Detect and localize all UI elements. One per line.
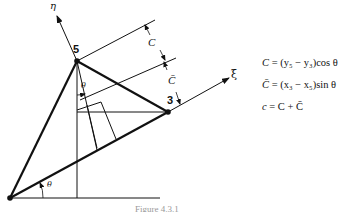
equation-c-rhs: = (y₅ − y₃)cos θ	[272, 57, 338, 68]
edge-origin-node3	[10, 112, 168, 198]
equation-cbar-rhs: = (x₃ − x₅)sin θ	[272, 79, 336, 90]
dimension-cbar-arrow-down	[176, 92, 180, 104]
theta-arc-top	[77, 94, 85, 95]
perp-projection-2	[101, 102, 116, 139]
equation-c-total-rhs: = C + C̄	[269, 101, 303, 112]
diagram-canvas: η ξ 5 3 θ θ C C̄ C = (y₅ − y₃)cos θ C̄ =…	[0, 0, 347, 212]
dimension-cbar-arrow-up	[164, 62, 167, 70]
figure-caption: Figure 4.3.1	[135, 204, 179, 212]
perp-projection-1	[87, 105, 97, 148]
node-5-label: 5	[73, 43, 79, 55]
xi-axis-label: ξ	[231, 68, 237, 81]
dimension-c-arrow-down	[160, 50, 165, 60]
equation-c: C = (y₅ − y₃)cos θ	[262, 57, 338, 68]
equation-cbar-lhs: C̄	[262, 79, 269, 90]
theta-label-top: θ	[81, 81, 86, 90]
node-3-label: 3	[167, 94, 173, 106]
dimension-c-arrow-up	[145, 25, 150, 35]
equation-c-total: c = C + C̄	[262, 101, 303, 112]
node-origin	[7, 195, 13, 201]
perp-top-link	[77, 102, 101, 110]
dimension-c-label: C	[148, 36, 155, 48]
equation-c-lhs: C	[262, 57, 269, 68]
dimension-cbar-label: C̄	[168, 74, 175, 86]
theta-label-bottom: θ	[47, 180, 52, 189]
node-3	[165, 109, 171, 115]
theta-arc-bottom	[40, 183, 43, 198]
equation-cbar: C̄ = (x₃ − x₅)sin θ	[262, 79, 336, 90]
extension-line-mid	[80, 58, 176, 100]
eta-axis-label: η	[50, 0, 56, 11]
node-5	[74, 58, 80, 64]
equation-c-total-lhs: c	[262, 101, 267, 112]
perp-line-1	[77, 112, 97, 150]
edge-origin-node5	[10, 61, 77, 198]
extension-line-node5	[77, 20, 155, 61]
edge-node5-node3	[77, 61, 168, 112]
